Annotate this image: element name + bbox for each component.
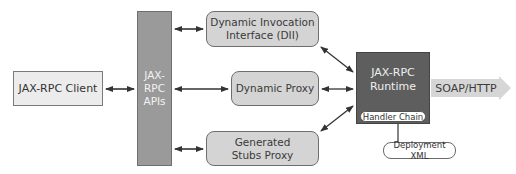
jax-rpc-apis-box: JAX- RPC APIs [137,11,172,166]
dynamic-proxy-box: Dynamic Proxy [231,71,319,106]
dii-box: Dynamic Invocation Interface (DII) [206,11,319,47]
apis-label-line1: JAX- [143,69,165,82]
handler-chain-pill: Handler Chain [360,111,426,122]
deployment-xml-pill: Deployment XML [383,142,456,159]
runtime-label-line2: Runtime [370,80,416,94]
apis-label-line3: APIs [143,95,165,108]
stubs-label-line1: Generated [232,136,294,149]
edge-stubs-runtime [321,106,353,131]
soap-http-arrow: SOAP/HTTP [431,76,511,100]
runtime-label-line1: JAX-RPC [371,66,415,80]
client-label: JAX-RPC Client [19,82,98,95]
dii-label-line1: Dynamic Invocation [210,16,314,29]
apis-label-line2: RPC [143,82,165,95]
generated-stubs-proxy-box: Generated Stubs Proxy [206,131,319,166]
dii-label-line2: Interface (DII) [210,29,314,42]
stubs-label-line2: Stubs Proxy [232,149,294,162]
deployment-xml-label: Deployment XML [384,140,455,160]
dynamic-proxy-label: Dynamic Proxy [236,82,314,95]
jax-rpc-runtime-box: JAX-RPC Runtime Handler Chain [356,52,430,124]
soap-http-label: SOAP/HTTP [431,76,501,100]
edge-dii-runtime [321,47,353,72]
jax-rpc-client-box: JAX-RPC Client [13,71,103,106]
